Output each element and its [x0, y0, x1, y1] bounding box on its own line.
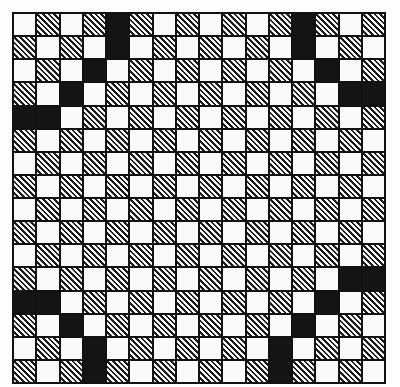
grid-cell-white: [340, 199, 361, 220]
grid-cell-hatched: [84, 245, 105, 266]
grid-cell-white: [293, 153, 314, 174]
grid-cell-white: [247, 245, 268, 266]
grid-cell-white: [107, 153, 128, 174]
grid-cell-white: [316, 83, 337, 104]
grid-cell-white: [340, 14, 361, 35]
grid-cell-hatched: [154, 37, 175, 58]
grid-cell-white: [200, 292, 221, 313]
grid-cell-black: [84, 361, 105, 382]
grid-cell-hatched: [270, 60, 291, 81]
grid-cell-white: [177, 222, 198, 243]
grid-cell-white: [61, 107, 82, 128]
grid-cell-hatched: [61, 176, 82, 197]
grid-cell-white: [107, 199, 128, 220]
grid-cell-white: [14, 60, 35, 81]
grid-cell-white: [61, 199, 82, 220]
grid-cell-hatched: [61, 361, 82, 382]
grid-cell-hatched: [154, 222, 175, 243]
grid-cell-hatched: [154, 130, 175, 151]
grid-cell-hatched: [107, 176, 128, 197]
grid-cell-hatched: [363, 153, 384, 174]
grid-cell-hatched: [177, 153, 198, 174]
grid-cell-black: [340, 83, 361, 104]
grid-cell-white: [130, 268, 151, 289]
grid-cell-hatched: [270, 14, 291, 35]
grid-cell-white: [247, 60, 268, 81]
grid-cell-hatched: [340, 130, 361, 151]
grid-cell-white: [223, 222, 244, 243]
grid-cell-white: [316, 130, 337, 151]
grid-cell-white: [177, 130, 198, 151]
grid-cell-white: [247, 292, 268, 313]
grid-cell-hatched: [200, 83, 221, 104]
grid-cell-hatched: [293, 268, 314, 289]
grid-cell-white: [340, 338, 361, 359]
grid-cell-black: [270, 361, 291, 382]
grid-cell-hatched: [107, 130, 128, 151]
grid-cell-white: [84, 37, 105, 58]
grid-cell-white: [61, 338, 82, 359]
grid-cell-hatched: [316, 199, 337, 220]
grid-cell-white: [177, 83, 198, 104]
grid-cell-hatched: [200, 130, 221, 151]
grid-cell-hatched: [84, 14, 105, 35]
grid-cell-white: [270, 222, 291, 243]
grid-cell-white: [316, 315, 337, 336]
grid-cell-hatched: [270, 292, 291, 313]
grid-cell-white: [14, 245, 35, 266]
grid-cell-white: [84, 176, 105, 197]
grid-cell-hatched: [130, 245, 151, 266]
grid-cell-hatched: [223, 60, 244, 81]
grid-cell-white: [154, 153, 175, 174]
grid-cell-black: [37, 107, 58, 128]
grid-cell-hatched: [363, 199, 384, 220]
grid-cell-white: [37, 37, 58, 58]
grid-cell-hatched: [293, 83, 314, 104]
grid-cell-white: [200, 14, 221, 35]
grid-cell-white: [247, 14, 268, 35]
grid-cell-hatched: [293, 130, 314, 151]
grid-cell-white: [223, 83, 244, 104]
grid-cell-white: [340, 245, 361, 266]
grid-cell-hatched: [293, 361, 314, 382]
grid-cell-hatched: [84, 153, 105, 174]
grid-cell-hatched: [37, 60, 58, 81]
grid-cell-hatched: [130, 292, 151, 313]
grid-cell-hatched: [340, 37, 361, 58]
grid-cell-hatched: [363, 245, 384, 266]
grid-cell-hatched: [270, 107, 291, 128]
grid-cell-white: [363, 176, 384, 197]
grid-cell-white: [130, 83, 151, 104]
grid-cell-white: [200, 107, 221, 128]
grid-cell-white: [293, 338, 314, 359]
grid-cell-hatched: [177, 199, 198, 220]
grid-cell-white: [340, 60, 361, 81]
grid-cell-white: [200, 153, 221, 174]
grid-cell-hatched: [14, 176, 35, 197]
grid-cell-white: [37, 361, 58, 382]
grid-cell-hatched: [223, 292, 244, 313]
grid-cell-black: [107, 14, 128, 35]
grid-cell-white: [84, 268, 105, 289]
grid-cell-white: [223, 315, 244, 336]
grid-cell-white: [200, 338, 221, 359]
grid-cell-hatched: [363, 338, 384, 359]
grid-cell-hatched: [316, 153, 337, 174]
grid-cell-black: [340, 268, 361, 289]
grid-cell-hatched: [316, 245, 337, 266]
grid-cell-white: [37, 176, 58, 197]
grid-cell-hatched: [154, 361, 175, 382]
grid-cell-hatched: [107, 268, 128, 289]
grid-cell-hatched: [154, 176, 175, 197]
grid-cell-black: [316, 60, 337, 81]
grid-cell-black: [107, 37, 128, 58]
grid-cell-white: [154, 14, 175, 35]
grid-cell-hatched: [130, 338, 151, 359]
grid-cell-white: [130, 315, 151, 336]
grid-cell-hatched: [200, 37, 221, 58]
grid-cell-white: [200, 199, 221, 220]
grid-cell-black: [363, 83, 384, 104]
grid-cell-white: [223, 176, 244, 197]
grid-cell-white: [177, 361, 198, 382]
grid-cell-hatched: [200, 176, 221, 197]
